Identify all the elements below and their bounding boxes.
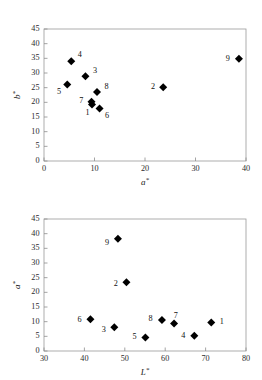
y-tick-label: 35 [31, 243, 39, 252]
x-tick-label: 80 [242, 354, 250, 363]
y-tick-label: 20 [31, 287, 39, 296]
y-tick-label: 45 [31, 24, 39, 33]
x-tick-label: 0 [42, 164, 46, 173]
y-tick-label: 25 [31, 83, 39, 92]
y-tick-label: 40 [31, 229, 39, 238]
x-axis-title: L* [140, 366, 150, 377]
data-point-label: 3 [93, 66, 97, 75]
y-axis-title: a* [11, 281, 22, 290]
x-axis-title: a* [141, 176, 150, 187]
plot-frame [44, 219, 246, 351]
x-tick-label: 40 [80, 354, 88, 363]
y-tick-label: 45 [31, 214, 39, 223]
y-tick-label: 10 [31, 317, 39, 326]
scatter-chart-b-vs-a: 010203040051015202530354045a*b*123456789 [0, 0, 262, 190]
data-point-label: 2 [114, 279, 118, 288]
data-point-label: 5 [57, 87, 61, 96]
y-tick-label: 15 [31, 112, 39, 121]
data-point-label: 1 [220, 317, 224, 326]
data-point-label: 6 [78, 315, 82, 324]
y-tick-label: 30 [31, 258, 39, 267]
x-tick-label: 40 [242, 164, 250, 173]
scatter-chart-a-vs-l: 304050607080051015202530354045L*a*123456… [0, 190, 262, 380]
y-axis-title: b* [11, 91, 22, 100]
plot-area-a-vs-l: 304050607080051015202530354045L*a*123456… [0, 190, 262, 380]
data-point-label: 4 [78, 50, 82, 59]
x-tick-label: 30 [40, 354, 48, 363]
data-point-label: 2 [151, 82, 155, 91]
data-point-label: 9 [105, 238, 109, 247]
x-tick-label: 60 [161, 354, 169, 363]
data-point-label: 9 [226, 54, 230, 63]
data-point-label: 1 [85, 108, 89, 117]
y-tick-label: 30 [31, 68, 39, 77]
data-point-label: 8 [149, 314, 153, 323]
y-tick-label: 0 [35, 156, 39, 165]
y-tick-label: 5 [35, 331, 39, 340]
y-tick-label: 0 [35, 346, 39, 355]
data-point-label: 3 [102, 325, 106, 334]
y-tick-label: 15 [31, 302, 39, 311]
x-tick-label: 50 [121, 354, 129, 363]
y-tick-label: 35 [31, 53, 39, 62]
plot-frame [44, 29, 246, 161]
data-point-label: 7 [79, 96, 83, 105]
y-tick-label: 25 [31, 273, 39, 282]
y-tick-label: 40 [31, 39, 39, 48]
data-point-label: 7 [174, 311, 178, 320]
data-point-label: 5 [132, 332, 136, 341]
x-tick-label: 20 [141, 164, 149, 173]
data-point-label: 6 [105, 111, 109, 120]
x-tick-label: 70 [202, 354, 210, 363]
x-tick-label: 30 [191, 164, 199, 173]
y-tick-label: 5 [35, 141, 39, 150]
y-tick-label: 20 [31, 97, 39, 106]
y-tick-label: 10 [31, 127, 39, 136]
plot-area-b-vs-a: 010203040051015202530354045a*b*123456789 [0, 0, 262, 190]
x-tick-label: 10 [90, 164, 98, 173]
data-point-label: 4 [181, 331, 185, 340]
data-point-label: 8 [105, 82, 109, 91]
